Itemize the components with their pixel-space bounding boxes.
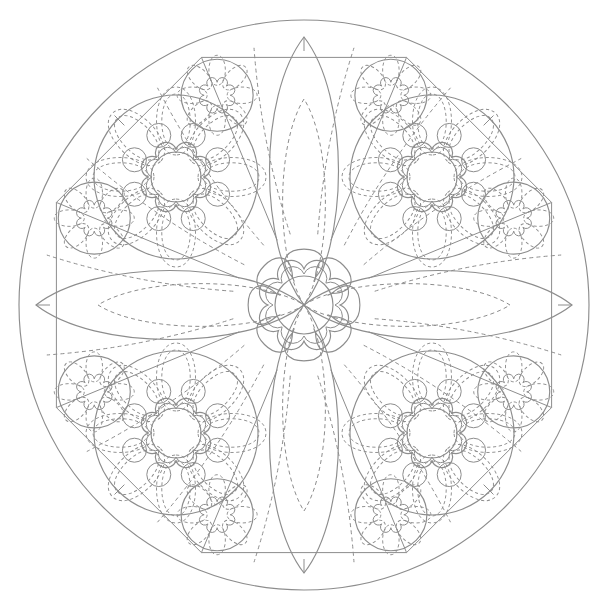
medallion-dot-circle	[206, 404, 230, 428]
axis-leaf	[270, 305, 339, 573]
medallion-dot-circle	[181, 123, 205, 147]
medallion-dot-circle	[378, 182, 402, 206]
ray-dashed	[375, 255, 562, 291]
petal-inner	[93, 163, 148, 192]
large-flower-medallion	[86, 87, 266, 267]
axis-leaf	[36, 271, 304, 340]
axis-leaf-outline	[270, 37, 339, 305]
medallion-petal	[412, 343, 451, 411]
mandala-drawing	[0, 0, 608, 612]
large-flower-medallion	[86, 343, 266, 523]
axis-leaf	[304, 271, 572, 340]
medallion-dot-circle	[378, 438, 402, 462]
large-flower-medallion	[342, 343, 522, 523]
medallion-petal	[342, 413, 410, 452]
medallion-petal	[99, 435, 175, 511]
medallion-petal	[99, 100, 175, 176]
ray-dashed	[47, 319, 234, 355]
petal-outline	[198, 158, 266, 197]
petal-outline	[355, 356, 431, 432]
medallion-dot-circle	[462, 148, 486, 172]
petal-inner	[418, 94, 447, 149]
medallion-petal	[434, 100, 510, 176]
large-flower-medallion	[342, 87, 522, 267]
petal-outline	[355, 179, 431, 255]
medallion-dot-circle	[147, 207, 171, 231]
medallion-petal	[157, 455, 196, 523]
medallion-petal	[355, 356, 431, 432]
petal-outline	[342, 413, 410, 452]
petal-outline	[434, 100, 510, 176]
medallion-petal	[178, 179, 254, 255]
petal-outline	[157, 199, 196, 267]
medallion-dot-circle	[206, 438, 230, 462]
medallion-dot-circle	[462, 404, 486, 428]
ray-dashed	[254, 376, 290, 563]
petal-outline	[454, 413, 522, 452]
medallion-dot-circle	[181, 463, 205, 487]
medallion-dot-circle	[437, 123, 461, 147]
medallion-petal	[157, 343, 196, 411]
medallion-dot-circle	[437, 379, 461, 403]
petal-inner	[186, 364, 245, 423]
medallion-dot-circle	[122, 148, 146, 172]
medallion-petal	[157, 199, 196, 267]
medallion-dot-circle	[403, 463, 427, 487]
medallion-petal	[454, 413, 522, 452]
medallion-core-circle	[151, 152, 201, 202]
medallion-dot-circle	[462, 182, 486, 206]
petal-inner	[460, 419, 515, 448]
medallion-petal	[412, 199, 451, 267]
petal-outline	[412, 199, 451, 267]
ray-dashed	[254, 48, 290, 235]
medallion-petal	[342, 158, 410, 197]
medallion-dot-circle	[181, 207, 205, 231]
ray-dashed	[318, 376, 354, 563]
medallion-core-circle	[151, 408, 201, 458]
petal-outline	[157, 343, 196, 411]
medallion-dot-circle	[206, 148, 230, 172]
petal-inner	[107, 364, 166, 423]
petal-outline	[342, 158, 410, 197]
medallion-petal	[178, 356, 254, 432]
petal-inner	[442, 364, 501, 423]
medallion-dot-circle	[147, 123, 171, 147]
petal-inner	[186, 187, 245, 246]
medallion-dot-circle	[122, 404, 146, 428]
petal-outline	[178, 179, 254, 255]
petal-inner	[363, 443, 422, 502]
ray-dashed	[375, 319, 562, 355]
medallion-petal	[412, 87, 451, 155]
medallion-core-circle	[407, 152, 457, 202]
axis-leaf-outline	[36, 271, 304, 340]
medallion-petal	[86, 158, 154, 197]
petal-inner	[186, 108, 245, 167]
mandala-canvas	[0, 0, 608, 612]
petal-inner	[363, 364, 422, 423]
medallion-dot-circle	[147, 379, 171, 403]
medallion-dot-circle	[122, 182, 146, 206]
ray-dashed	[47, 255, 234, 291]
medallion-dot-circle	[462, 438, 486, 462]
petal-outline	[99, 435, 175, 511]
petal-outline	[198, 413, 266, 452]
petal-outline	[412, 87, 451, 155]
medallion-dot-circle	[147, 463, 171, 487]
petal-outline	[99, 100, 175, 176]
medallion-petal	[355, 179, 431, 255]
axis-leaf-outline	[270, 305, 339, 573]
medallion-petal	[198, 158, 266, 197]
ray-dashed	[318, 48, 354, 235]
petal-inner	[442, 187, 501, 246]
medallion-dot-circle	[378, 148, 402, 172]
medallion-dot-circle	[403, 123, 427, 147]
petal-inner	[363, 187, 422, 246]
petal-outline	[86, 158, 154, 197]
axis-leaf-outline	[304, 271, 572, 340]
medallion-dot-circle	[122, 438, 146, 462]
petal-outline	[434, 435, 510, 511]
medallion-dot-circle	[437, 207, 461, 231]
petal-inner	[363, 108, 422, 167]
petal-inner	[107, 187, 166, 246]
petal-outline	[178, 356, 254, 432]
